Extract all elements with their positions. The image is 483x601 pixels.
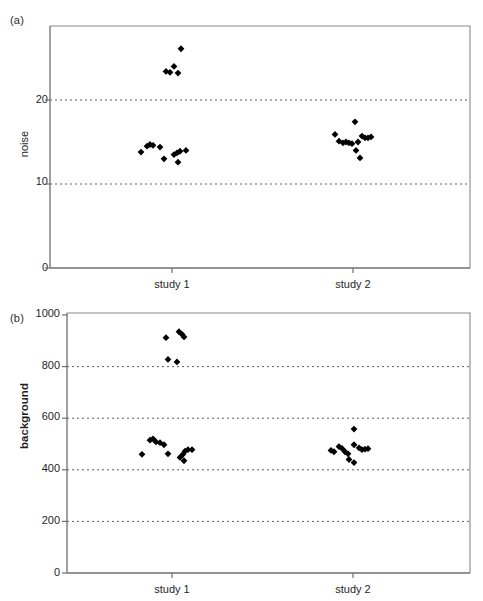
data-point bbox=[157, 144, 164, 151]
data-point bbox=[161, 155, 168, 162]
data-point bbox=[138, 149, 145, 156]
figure-container: (a) noise 20 10 0 study 1 study 2 (b) ba… bbox=[0, 0, 483, 601]
panel-b-plot-area bbox=[0, 300, 483, 601]
data-point bbox=[171, 63, 178, 70]
data-point bbox=[165, 356, 172, 363]
data-point bbox=[178, 45, 185, 52]
data-point bbox=[189, 446, 196, 453]
panel-a: (a) noise 20 10 0 study 1 study 2 bbox=[0, 0, 483, 300]
data-point bbox=[357, 155, 364, 162]
series-study-1 bbox=[138, 45, 190, 165]
data-point bbox=[183, 147, 190, 154]
series-study-2 bbox=[328, 426, 372, 466]
data-point bbox=[352, 118, 359, 125]
data-point bbox=[163, 334, 170, 341]
panel-b: (b) background 1000 800 600 400 200 0 st… bbox=[0, 300, 483, 601]
data-point bbox=[139, 451, 146, 458]
series-study-1 bbox=[139, 328, 196, 464]
data-point bbox=[332, 131, 339, 138]
data-point bbox=[175, 159, 182, 166]
plot-frame bbox=[67, 313, 470, 573]
plot-frame bbox=[50, 26, 470, 268]
panel-a-plot-area bbox=[0, 0, 483, 300]
data-point bbox=[351, 426, 358, 433]
series-study-2 bbox=[332, 118, 375, 161]
data-point bbox=[353, 147, 360, 154]
data-point bbox=[355, 139, 362, 146]
data-point bbox=[175, 70, 182, 77]
data-point bbox=[165, 450, 172, 457]
data-point bbox=[174, 359, 181, 366]
